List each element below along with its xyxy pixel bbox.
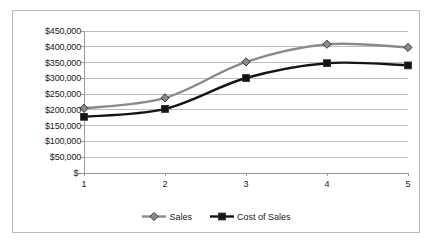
diamond-marker-icon xyxy=(141,211,167,222)
x-axis: 12345 xyxy=(13,11,419,232)
x-tick-label: 3 xyxy=(243,179,248,189)
legend-item-sales[interactable]: Sales xyxy=(141,211,192,222)
x-tick-label: 4 xyxy=(324,179,329,189)
plot-area: $-$50,000$100,000$150,000$200,000$250,00… xyxy=(13,11,419,232)
legend-item-cost-of-sales[interactable]: Cost of Sales xyxy=(209,211,291,222)
x-tick-label: 1 xyxy=(81,179,86,189)
chart-legend: SalesCost of Sales xyxy=(13,211,419,222)
chart-container: $-$50,000$100,000$150,000$200,000$250,00… xyxy=(12,10,420,233)
x-tick-label: 5 xyxy=(405,179,410,189)
legend-label: Cost of Sales xyxy=(237,212,291,222)
square-marker-icon xyxy=(209,211,235,222)
legend-label: Sales xyxy=(169,212,192,222)
x-tick-label: 2 xyxy=(162,179,167,189)
